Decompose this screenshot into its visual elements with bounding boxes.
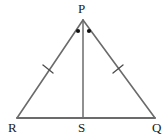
geometry-figure: P R S Q [0, 0, 165, 138]
side-PR-line [17, 20, 83, 118]
vertex-label-r: R [8, 121, 17, 134]
vertex-label-q: Q [152, 121, 161, 134]
angle-dot-spq-icon [87, 29, 91, 33]
vertex-label-p: P [78, 2, 85, 15]
triangle-diagram [0, 0, 165, 138]
angle-dot-rps-icon [76, 29, 80, 33]
vertex-label-s: S [78, 121, 85, 134]
